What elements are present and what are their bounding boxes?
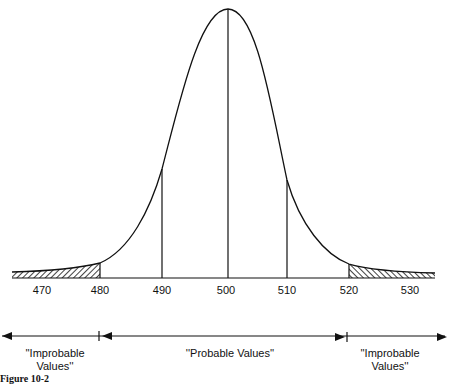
right-improbable-label: ''Improbable Values'' [350,347,430,373]
tick-470: 470 [27,284,57,296]
tick-520: 520 [334,284,364,296]
left-improbable-label: ''Improbable Values'' [15,347,95,373]
tick-500: 500 [211,284,241,296]
tick-510: 510 [272,284,302,296]
tick-480: 480 [85,284,115,296]
probable-label: ''Probable Values'' [170,347,290,360]
tick-490: 490 [147,284,177,296]
bell-curve [12,9,435,273]
figure-caption: Figure 10-2 [0,373,49,384]
tick-530: 530 [395,284,425,296]
